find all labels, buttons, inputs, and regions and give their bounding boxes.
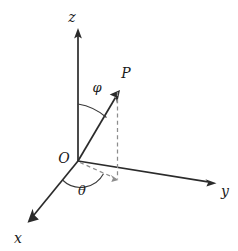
z-axis-label: z — [67, 9, 76, 25]
y-axis — [78, 161, 217, 187]
spherical-coordinates-figure: z y x O P φ θ — [0, 0, 238, 251]
point-p-label: P — [120, 65, 131, 81]
x-axis-line — [34, 161, 79, 216]
x-axis — [28, 161, 79, 223]
y-axis-arrowhead — [205, 179, 216, 186]
x-axis-label: x — [14, 230, 22, 246]
phi-arc-path — [78, 104, 107, 118]
y-axis-line — [78, 161, 208, 182]
theta-angle-label: θ — [78, 183, 86, 198]
z-axis — [74, 28, 82, 161]
y-axis-label: y — [220, 183, 230, 199]
op-ray-arrowhead — [110, 90, 120, 104]
phi-angle-label: φ — [92, 80, 102, 95]
origin-label: O — [58, 150, 70, 166]
inplane-dashed-arrowhead — [111, 175, 119, 182]
phi-angle-arc — [78, 104, 107, 118]
diagram-canvas: z y x O P φ θ — [0, 0, 238, 251]
op-ray-line — [78, 98, 116, 162]
op-ray — [78, 90, 120, 161]
